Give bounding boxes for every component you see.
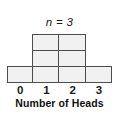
plot-area xyxy=(7,32,112,83)
bar-cell xyxy=(32,50,59,67)
x-axis-label: Number of Heads xyxy=(0,97,119,109)
chart-title: n = 3 xyxy=(0,16,119,28)
x-axis-tick-labels: 0 1 2 3 xyxy=(7,84,112,97)
bar-cell xyxy=(58,66,85,83)
bar-cell xyxy=(32,34,59,51)
x-tick-label: 3 xyxy=(86,84,112,97)
bar-column-0 xyxy=(7,67,33,83)
x-tick-label: 0 xyxy=(7,84,33,97)
bar-cell xyxy=(85,66,112,83)
x-tick-label: 2 xyxy=(60,84,86,97)
bar-cell xyxy=(32,66,59,83)
bar-cell xyxy=(7,66,33,83)
bar-column-3 xyxy=(86,67,112,83)
bar-column-2 xyxy=(60,36,86,83)
bar-cell xyxy=(58,34,85,51)
x-tick-label: 1 xyxy=(33,84,59,97)
bar-cell xyxy=(58,50,85,67)
bar-column-1 xyxy=(33,36,59,83)
histogram-figure: n = 3 0 1 2 3 Number of Heads xyxy=(0,0,119,114)
